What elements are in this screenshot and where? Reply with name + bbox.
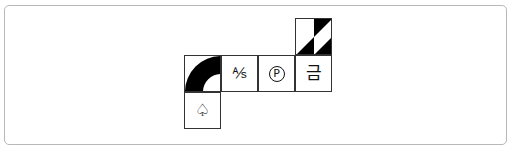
hangul-geum-symbol: 금	[306, 65, 322, 82]
circled-p-symbol: P	[269, 66, 285, 82]
tile-circled-p: P	[258, 55, 295, 92]
diagonal-triangle-icon	[296, 19, 332, 55]
tile-diagonal	[295, 18, 332, 55]
tile-hangul-geum: 금	[295, 55, 332, 92]
quarter-arc-icon	[185, 56, 221, 92]
a-per-s-symbol: ⅍	[232, 66, 246, 81]
tile-quarter-arc	[184, 55, 221, 92]
white-spade-symbol: ♤	[195, 102, 210, 119]
tile-a-per-s: ⅍	[221, 55, 258, 92]
tile-white-spade: ♤	[184, 92, 221, 129]
